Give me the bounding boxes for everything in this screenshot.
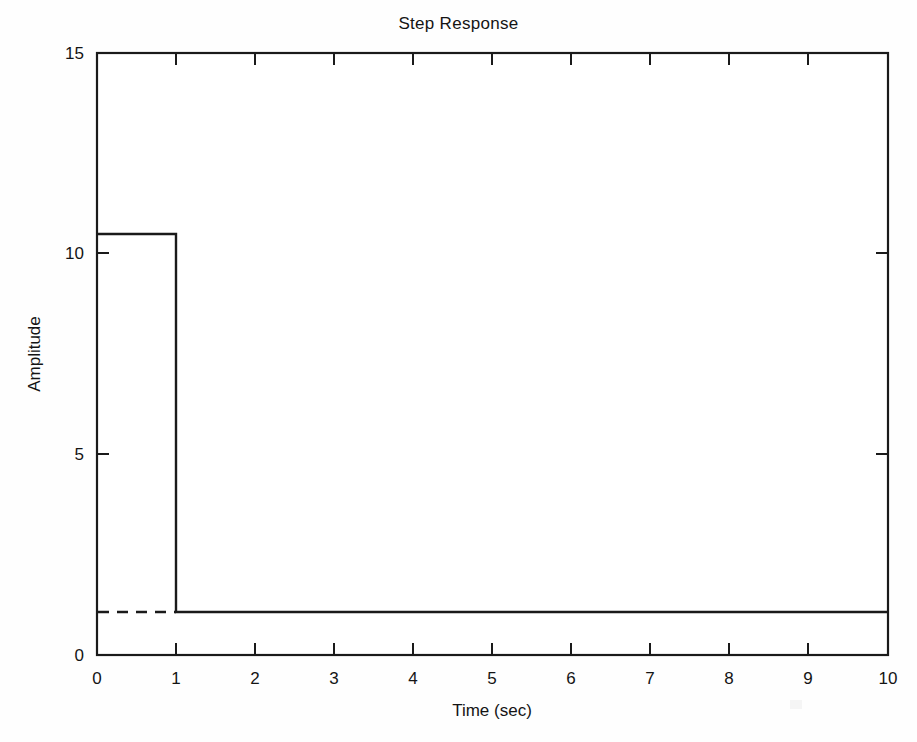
plot-area: 0 1 2 3 4 5 6 7 8 9 10 0 5 10 15 Time (s…: [0, 0, 917, 742]
x-tick-label: 10: [879, 669, 898, 688]
x-tick-label: 1: [171, 669, 180, 688]
y-axis-title: Amplitude: [25, 316, 44, 392]
x-tick-label: 5: [487, 669, 496, 688]
y-tick-label: 10: [65, 244, 84, 263]
plot-frame: [97, 53, 888, 655]
x-tick-label: 2: [250, 669, 259, 688]
x-tick-label: 7: [645, 669, 654, 688]
x-tick-label: 9: [803, 669, 812, 688]
y-tick-labels: 0 5 10 15: [65, 44, 84, 665]
x-axis-title: Time (sec): [452, 701, 532, 720]
x-tick-label: 3: [329, 669, 338, 688]
x-tick-label: 0: [92, 669, 101, 688]
y-tick-label: 0: [75, 646, 84, 665]
x-tick-labels: 0 1 2 3 4 5 6 7 8 9 10: [92, 669, 897, 688]
x-tick-label: 6: [566, 669, 575, 688]
figure-canvas: Step Response: [0, 0, 917, 742]
y-tick-label: 15: [65, 44, 84, 63]
x-tick-label: 8: [724, 669, 733, 688]
y-tick-label: 5: [75, 445, 84, 464]
x-tick-label: 4: [408, 669, 417, 688]
